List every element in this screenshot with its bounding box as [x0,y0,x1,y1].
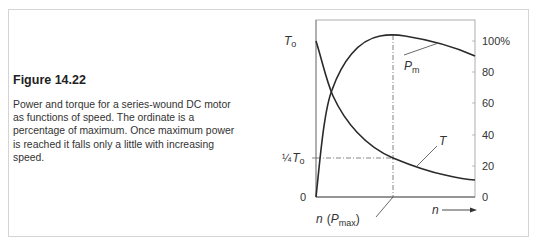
left-axis-labels: To ¼To 0 [282,34,306,203]
right-axis-labels: 100% 80 60 40 20 0 [482,35,510,203]
label-zero: 0 [300,191,306,203]
tick-label-20: 20 [482,160,494,172]
right-axis-ticks [472,41,475,166]
x-axis-arrow-head-icon [470,208,477,213]
pm-label: Pm [404,59,420,75]
tick-label-80: 80 [482,66,494,78]
tick-label-0: 0 [482,191,488,203]
power-curve [316,35,475,197]
torque-curve [316,41,475,180]
pmax-leader-line [376,197,393,217]
t-leader-line [416,146,437,167]
label-to: To [284,34,296,49]
x-axis-label: n [432,203,439,217]
pmax-label: n(Pmax) [316,212,360,228]
label-quarter-to: ¼To [282,151,305,166]
t-label: T [439,134,448,148]
pm-leader-line [404,44,437,56]
tick-label-100: 100% [482,35,510,47]
chart: 100% 80 60 40 20 0 To ¼To 0 Pm T n(Pmax)… [0,0,540,246]
tick-label-60: 60 [482,97,494,109]
tick-label-40: 40 [482,129,494,141]
